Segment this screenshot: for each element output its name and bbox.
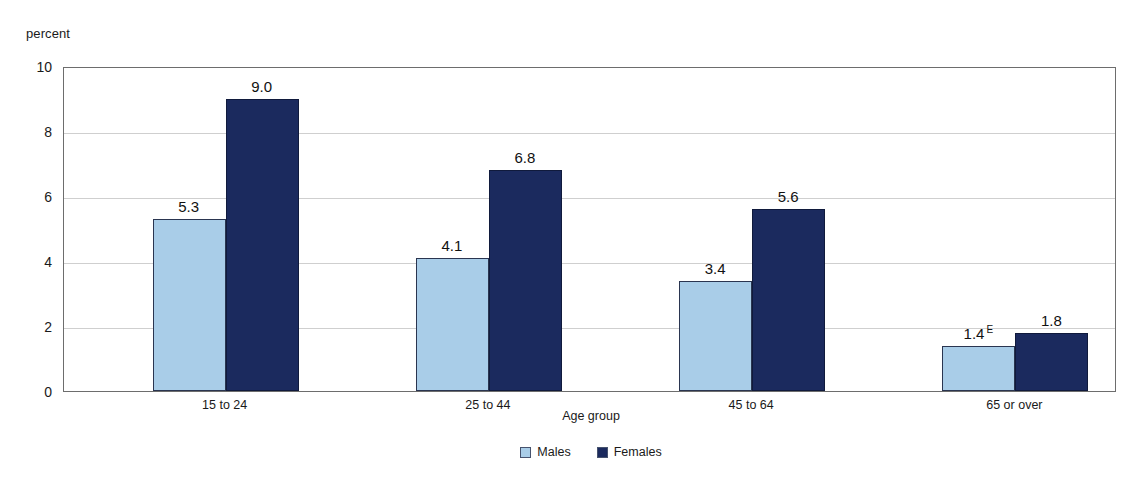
bar-females-1[interactable] [226, 99, 299, 392]
bar-group: 1.4E1.8 [942, 68, 1088, 391]
bar-males-3[interactable] [679, 281, 752, 392]
legend-item-males[interactable]: Males [520, 445, 570, 459]
bar-females-3[interactable] [752, 209, 825, 391]
bar-value-label: 5.6 [733, 189, 843, 204]
bar-males-2[interactable] [416, 258, 489, 391]
x-axis-title: Age group [0, 409, 1138, 423]
y-tick-label: 4 [8, 255, 52, 269]
bar-males-1[interactable] [153, 219, 226, 391]
legend-item-females[interactable]: Females [597, 445, 662, 459]
y-tick-label: 8 [8, 125, 52, 139]
bar-value-label: 9.0 [207, 79, 317, 94]
bar-males-4[interactable] [942, 346, 1015, 392]
y-tick-label: 6 [8, 190, 52, 204]
quality-marker: E [986, 324, 993, 335]
bar-value-label: 1.8 [996, 313, 1106, 328]
y-tick-label: 0 [8, 385, 52, 399]
bar-value-label: 6.8 [470, 150, 580, 165]
legend-swatch-females [597, 447, 608, 458]
y-axis-tick-labels: 0246810 [0, 67, 52, 392]
legend-label: Females [614, 445, 662, 459]
y-tick-label: 10 [8, 60, 52, 74]
plot-area: 5.39.04.16.83.45.61.4E1.8 [63, 67, 1116, 392]
legend-swatch-males [520, 447, 531, 458]
bar-chart: percent 0246810 5.39.04.16.83.45.61.4E1.… [0, 0, 1138, 481]
bar-group: 3.45.6 [679, 68, 825, 391]
bar-females-2[interactable] [489, 170, 562, 391]
bar-group: 5.39.0 [153, 68, 299, 391]
legend: MalesFemales [0, 445, 1138, 459]
y-axis-unit-label: percent [26, 26, 70, 41]
legend-label: Males [537, 445, 570, 459]
bar-group: 4.16.8 [416, 68, 562, 391]
y-tick-label: 2 [8, 320, 52, 334]
bar-females-4[interactable] [1015, 333, 1088, 392]
